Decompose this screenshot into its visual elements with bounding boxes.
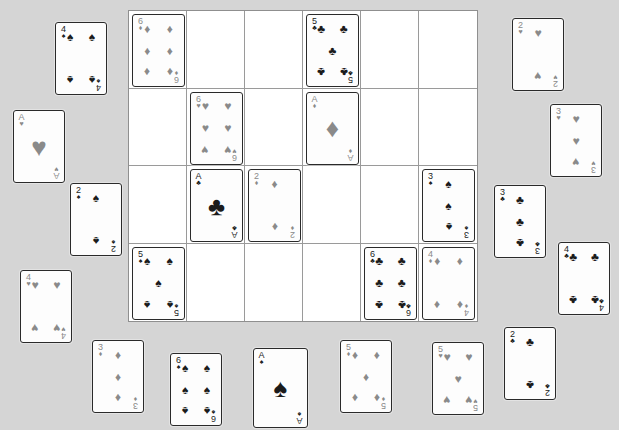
card-pip-spades-icon: ♠ <box>204 405 210 417</box>
card-pip-clubs-icon: ♣ <box>516 216 524 228</box>
card-pip-hearts-icon: ♥ <box>32 322 39 334</box>
grid-cell-r3c2[interactable]: A♣A♣♣ <box>187 166 245 244</box>
card-pip-spades-icon: ♠ <box>445 200 451 212</box>
card-pip-area: ♠♠♠♠♠ <box>142 253 175 314</box>
playing-card-2-diamonds-r3c3[interactable]: 2♦2♦♦♦ <box>248 169 301 242</box>
playing-card-6-spades-loose[interactable]: 6♠6♠♠♠♠♠♠♠ <box>170 353 222 426</box>
playing-card-3-hearts-loose[interactable]: 3♥3♥♥♥♥ <box>550 104 602 177</box>
card-pip-spades-icon: ♠ <box>155 277 161 289</box>
card-pip-clubs-icon: ♣ <box>208 193 225 219</box>
grid-cell-r3c5[interactable] <box>361 166 419 244</box>
card-pip-clubs-icon: ♣ <box>317 66 325 78</box>
card-pip-area: ♠♠♠ <box>432 175 465 236</box>
card-pip-diamonds-icon: ♦ <box>115 349 121 361</box>
card-pip-clubs-icon: ♣ <box>526 379 534 391</box>
grid-cell-r3c4[interactable] <box>303 166 361 244</box>
card-pip-clubs-icon: ♣ <box>516 237 524 249</box>
card-pip-clubs-icon: ♣ <box>375 277 383 289</box>
grid-cell-r1c1[interactable]: 6♦6♦♦♦♦♦♦♦ <box>129 11 187 89</box>
card-pip-hearts-icon: ♥ <box>454 373 461 385</box>
playing-card-5-diamonds-loose[interactable]: 5♦5♦♦♦♦♦♦ <box>340 340 392 413</box>
grid-cell-r2c1[interactable] <box>129 89 187 167</box>
card-pip-spades-icon: ♠ <box>67 31 73 43</box>
card-pip-clubs-icon: ♣ <box>340 23 348 35</box>
card-pip-spades-icon: ♠ <box>445 178 451 190</box>
card-pip-hearts-icon: ♥ <box>202 122 209 134</box>
card-pip-area: ♣♣ <box>514 333 546 394</box>
card-pip-area: ♣♣♣♣♣♣ <box>374 253 407 314</box>
playing-card-3-clubs-loose[interactable]: 3♣3♣♣♣♣ <box>494 185 546 258</box>
playing-card-4-clubs-loose[interactable]: 4♣4♣♣♣♣♣ <box>558 242 610 315</box>
playing-card-2-hearts-loose[interactable]: 2♥2♥♥♥ <box>512 18 564 91</box>
playing-card-2-clubs-loose[interactable]: 2♣2♣♣♣ <box>504 327 556 400</box>
grid-cell-r3c1[interactable] <box>129 166 187 244</box>
playing-card-6-diamonds-r1c1[interactable]: 6♦6♦♦♦♦♦♦♦ <box>132 14 185 87</box>
grid-cell-r2c2[interactable]: 6♥6♥♥♥♥♥♥♥ <box>187 89 245 167</box>
card-pip-hearts-icon: ♥ <box>572 135 579 147</box>
card-pip-diamonds-icon: ♦ <box>144 23 150 35</box>
playing-card-a-diamonds-r2c4[interactable]: A♦A♦♦ <box>306 92 359 165</box>
grid-cell-r1c2[interactable] <box>187 11 245 89</box>
playing-card-3-diamonds-loose[interactable]: 3♦3♦♦♦♦ <box>92 340 144 413</box>
card-pip-spades-icon: ♠ <box>89 31 95 43</box>
card-pip-area: ♥ <box>23 116 55 177</box>
card-pip-area: ♣ <box>200 175 233 236</box>
grid-cell-r2c5[interactable] <box>361 89 419 167</box>
playing-card-6-clubs-r4c5[interactable]: 6♣6♣♣♣♣♣♣♣ <box>364 247 417 320</box>
card-pip-hearts-icon: ♥ <box>465 351 472 363</box>
card-pip-area: ♠♠ <box>80 189 112 250</box>
playing-card-5-hearts-loose[interactable]: 5♥5♥♥♥♥♥♥ <box>432 342 484 415</box>
playing-card-4-hearts-loose[interactable]: 4♥4♥♥♥♥♥ <box>20 270 72 343</box>
grid-cell-r4c4[interactable] <box>303 244 361 322</box>
card-pip-area: ♥♥♥♥ <box>30 276 62 337</box>
card-pip-area: ♦♦♦ <box>102 346 134 407</box>
playing-card-a-hearts-loose[interactable]: A♥A♥♥ <box>13 110 65 183</box>
playing-card-3-spades-r3c6[interactable]: 3♠3♠♠♠♠ <box>422 169 475 242</box>
playing-card-6-hearts-r2c2[interactable]: 6♥6♥♥♥♥♥♥♥ <box>190 92 243 165</box>
card-pip-diamonds-icon: ♦ <box>271 221 277 233</box>
grid-cell-r2c4[interactable]: A♦A♦♦ <box>303 89 361 167</box>
grid-cell-r4c1[interactable]: 5♠5♠♠♠♠♠♠ <box>129 244 187 322</box>
playing-card-4-spades-loose[interactable]: 4♠4♠♠♠♠♠ <box>55 22 107 95</box>
card-pip-hearts-icon: ♥ <box>224 144 231 156</box>
card-pip-spades-icon: ♠ <box>182 384 188 396</box>
card-pip-diamonds-icon: ♦ <box>457 255 463 267</box>
card-pip-diamonds-icon: ♦ <box>144 45 150 57</box>
playing-card-5-spades-r4c1[interactable]: 5♠5♠♠♠♠♠♠ <box>132 247 185 320</box>
grid-cell-r3c6[interactable]: 3♠3♠♠♠♠ <box>419 166 477 244</box>
grid-cell-r1c5[interactable] <box>361 11 419 89</box>
card-pip-diamonds-icon: ♦ <box>167 23 173 35</box>
grid-cell-r4c6[interactable]: 4♦4♦♦♦♦♦ <box>419 244 477 322</box>
grid-cell-r1c3[interactable] <box>245 11 303 89</box>
grid-cell-r4c2[interactable] <box>187 244 245 322</box>
card-pip-spades-icon: ♠ <box>89 74 95 86</box>
grid-cell-r1c6[interactable] <box>419 11 477 89</box>
grid-cell-r2c3[interactable] <box>245 89 303 167</box>
card-pip-diamonds-icon: ♦ <box>271 178 277 190</box>
card-pip-area: ♠ <box>263 354 298 422</box>
card-pip-clubs-icon: ♣ <box>569 251 577 263</box>
grid-cell-r3c3[interactable]: 2♦2♦♦♦ <box>245 166 303 244</box>
card-pip-area: ♥♥ <box>522 24 554 85</box>
playing-card-2-spades-loose[interactable]: 2♠2♠♠♠ <box>70 183 122 256</box>
playing-card-a-clubs-r3c2[interactable]: A♣A♣♣ <box>190 169 243 242</box>
playing-card-5-clubs-r1c4[interactable]: 5♣5♣♣♣♣♣♣ <box>306 14 359 87</box>
card-pip-spades-icon: ♠ <box>182 362 188 374</box>
card-grid[interactable]: 6♦6♦♦♦♦♦♦♦5♣5♣♣♣♣♣♣6♥6♥♥♥♥♥♥♥A♦A♦♦A♣A♣♣2… <box>128 10 478 322</box>
card-pip-hearts-icon: ♥ <box>202 144 209 156</box>
grid-cell-r2c6[interactable] <box>419 89 477 167</box>
playing-card-4-diamonds-r4c6[interactable]: 4♦4♦♦♦♦♦ <box>422 247 475 320</box>
card-pip-hearts-icon: ♥ <box>31 134 46 160</box>
card-pip-area: ♠♠♠♠♠♠ <box>180 359 212 420</box>
card-pip-diamonds-icon: ♦ <box>115 392 121 404</box>
card-pip-spades-icon: ♠ <box>93 192 99 204</box>
playing-card-a-spades-loose[interactable]: A♠A♠♠ <box>253 348 308 428</box>
grid-cell-r4c5[interactable]: 6♣6♣♣♣♣♣♣♣ <box>361 244 419 322</box>
card-pip-clubs-icon: ♣ <box>526 336 534 348</box>
card-pip-hearts-icon: ♥ <box>465 394 472 406</box>
card-pip-hearts-icon: ♥ <box>224 122 231 134</box>
card-pip-spades-icon: ♠ <box>274 375 288 401</box>
grid-cell-r1c4[interactable]: 5♣5♣♣♣♣♣♣ <box>303 11 361 89</box>
grid-cell-r4c3[interactable] <box>245 244 303 322</box>
card-pip-spades-icon: ♠ <box>182 405 188 417</box>
